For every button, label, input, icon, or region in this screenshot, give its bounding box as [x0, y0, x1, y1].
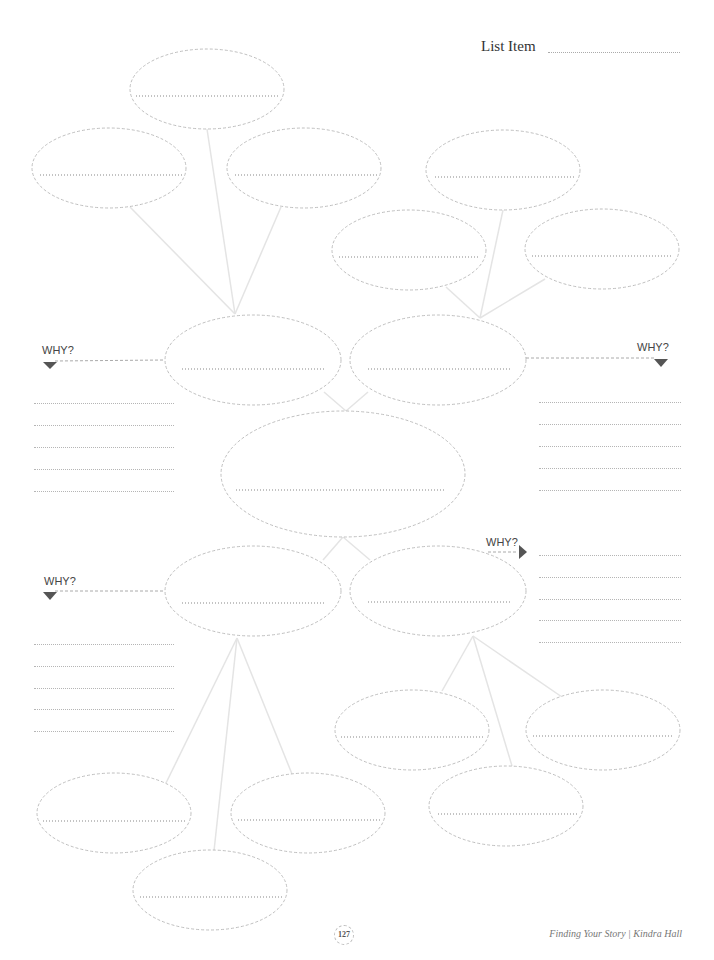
- arrow-down-icon: [43, 592, 57, 600]
- answer-line-ul-5[interactable]: [34, 491, 174, 492]
- arrow-right-icon: [519, 545, 527, 559]
- why-label-lower-right: WHY?: [486, 536, 518, 548]
- answer-line-ur-4[interactable]: [539, 468, 681, 469]
- node-branch-ur[interactable]: [350, 315, 526, 405]
- running-footer: Finding Your Story | Kindra Hall: [549, 928, 682, 939]
- answer-line-ur-1[interactable]: [539, 402, 681, 403]
- answer-line-lr-5[interactable]: [539, 642, 681, 643]
- node-branch-ul[interactable]: [165, 315, 341, 405]
- answer-line-ll-5[interactable]: [34, 731, 174, 732]
- answer-line-ur-2[interactable]: [539, 424, 681, 425]
- page-number: 127: [334, 925, 354, 945]
- why-label-lower-left: WHY?: [44, 575, 76, 587]
- node-upper-right-left[interactable]: [332, 210, 486, 290]
- answer-line-ll-3[interactable]: [34, 688, 174, 689]
- answer-line-ur-5[interactable]: [539, 490, 681, 491]
- why-label-upper-left: WHY?: [42, 344, 74, 356]
- answer-line-ll-2[interactable]: [34, 666, 174, 667]
- node-top-left[interactable]: [32, 128, 186, 208]
- node-upper-right-right[interactable]: [525, 209, 679, 289]
- node-top-1[interactable]: [130, 49, 284, 129]
- node-top-right[interactable]: [426, 130, 580, 210]
- node-bottom-left-2[interactable]: [231, 773, 385, 853]
- answer-line-lr-4[interactable]: [539, 620, 681, 621]
- node-branch-lr[interactable]: [350, 546, 526, 636]
- answer-line-ul-2[interactable]: [34, 425, 174, 426]
- node-bottom-right-2[interactable]: [526, 690, 680, 770]
- node-top-mid[interactable]: [227, 128, 381, 208]
- arrow-down-icon: [654, 359, 668, 367]
- diagram-canvas: [0, 0, 714, 960]
- answer-line-ul-3[interactable]: [34, 447, 174, 448]
- node-bottom-left-1[interactable]: [37, 773, 191, 853]
- node-center[interactable]: [221, 411, 465, 537]
- answer-line-ll-4[interactable]: [34, 709, 174, 710]
- node-branch-ll[interactable]: [165, 546, 341, 636]
- answer-line-lr-2[interactable]: [539, 577, 681, 578]
- why-label-upper-right: WHY?: [637, 341, 669, 353]
- answer-line-ur-3[interactable]: [539, 446, 681, 447]
- node-bottom-left-3[interactable]: [133, 850, 287, 930]
- answer-line-ll-1[interactable]: [34, 644, 174, 645]
- answer-line-ul-4[interactable]: [34, 469, 174, 470]
- arrow-down-icon: [43, 362, 57, 369]
- node-bottom-right-1[interactable]: [335, 690, 489, 770]
- answer-line-lr-3[interactable]: [539, 599, 681, 600]
- mind-map-worksheet: List Item: [0, 0, 714, 960]
- node-bottom-right-3[interactable]: [429, 766, 583, 846]
- answer-line-lr-1[interactable]: [539, 555, 681, 556]
- answer-line-ul-1[interactable]: [34, 403, 174, 404]
